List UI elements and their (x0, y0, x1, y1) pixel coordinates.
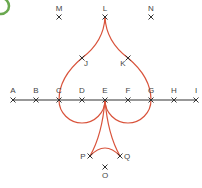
point-label: J (84, 59, 88, 68)
spade-construction-diagram: ABCDEFGHILMNJKPQO (0, 0, 202, 188)
question-badge-icon (0, 0, 9, 14)
point-label: F (126, 86, 131, 95)
point-q: Q (118, 152, 131, 161)
point-o: O (102, 165, 108, 181)
point-label: H (171, 86, 177, 95)
point-label: E (102, 86, 107, 95)
point-p: P (80, 152, 92, 161)
arc-p-q (90, 148, 120, 156)
point-l: L (103, 4, 108, 20)
point-label: I (195, 86, 197, 95)
point-label: C (56, 86, 62, 95)
point-m: M (56, 4, 63, 20)
point-label: P (80, 152, 85, 161)
point-label: M (56, 4, 63, 13)
point-label: D (79, 86, 85, 95)
point-label: B (33, 86, 38, 95)
point-label: N (148, 4, 154, 13)
point-label: A (10, 86, 16, 95)
point-label: L (103, 4, 108, 13)
point-label: Q (124, 152, 130, 161)
point-n: N (148, 4, 154, 20)
point-label: K (120, 59, 126, 68)
arc-e-g (105, 100, 151, 123)
point-label: G (148, 86, 154, 95)
point-label: O (102, 171, 108, 180)
point-k: K (120, 56, 130, 69)
arc-c-e (59, 100, 105, 123)
